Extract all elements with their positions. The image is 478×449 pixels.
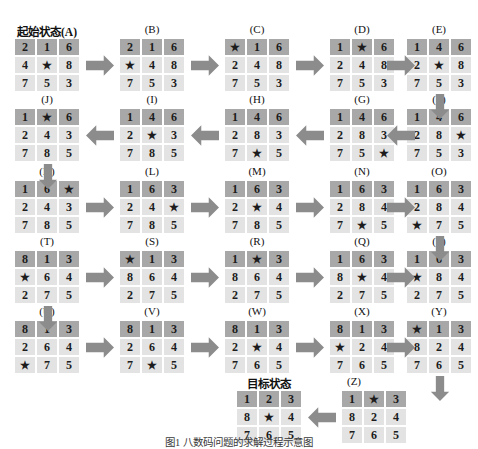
puzzle-row: ★13 xyxy=(406,320,472,338)
puzzle-tile: 1 xyxy=(142,321,162,337)
puzzle-tile: 2 xyxy=(352,339,372,355)
puzzle-tile: 5 xyxy=(269,145,289,161)
puzzle-tile: 5 xyxy=(269,217,289,233)
puzzle-tile: 2 xyxy=(259,391,279,407)
puzzle-state-o: 163284★75 xyxy=(406,180,472,234)
puzzle-tile: 1 xyxy=(225,181,245,197)
state-label-f: (F) xyxy=(379,93,478,105)
puzzle-row: 7★5 xyxy=(224,144,290,162)
puzzle-row: ★75 xyxy=(14,356,80,374)
puzzle-tile: 6 xyxy=(59,39,79,55)
puzzle-tile: 2 xyxy=(15,127,35,143)
puzzle-tile: 7 xyxy=(407,357,427,373)
puzzle-row: 275 xyxy=(329,286,395,304)
puzzle-tile: 2 xyxy=(15,287,35,303)
flow-arrow-down xyxy=(430,376,450,401)
puzzle-tile: 7 xyxy=(15,75,35,91)
puzzle-row: 813 xyxy=(119,320,185,338)
puzzle-tile: 7 xyxy=(225,357,245,373)
puzzle-row: 264 xyxy=(119,338,185,356)
puzzle-tile: 7 xyxy=(37,357,57,373)
puzzle-tile: 1 xyxy=(142,39,162,55)
puzzle-tile: 3 xyxy=(164,251,184,267)
puzzle-tile: 4 xyxy=(269,269,289,285)
puzzle-state-i: 1462★3785 xyxy=(119,108,185,162)
puzzle-tile: 2 xyxy=(120,287,140,303)
puzzle-state-m: 1632★4785 xyxy=(224,180,290,234)
puzzle-tile: 1 xyxy=(407,181,427,197)
puzzle-tile: 5 xyxy=(59,357,79,373)
puzzle-tile: 1 xyxy=(407,39,427,55)
puzzle-tile: 4 xyxy=(142,109,162,125)
puzzle-tile: 5 xyxy=(374,357,394,373)
puzzle-tile: 3 xyxy=(374,251,394,267)
puzzle-row: 8★4 xyxy=(236,408,302,426)
puzzle-tile: 4 xyxy=(269,339,289,355)
puzzle-row: 163 xyxy=(329,180,395,198)
puzzle-tile: 3 xyxy=(374,75,394,91)
puzzle-tile: 8 xyxy=(15,321,35,337)
puzzle-row: 163 xyxy=(329,250,395,268)
figure-caption: 图1 八数码问题的求解过程示意图 xyxy=(0,434,478,449)
state-label-t: (T) xyxy=(0,235,107,247)
puzzle-tile: 4 xyxy=(59,269,79,285)
puzzle-tile: 4 xyxy=(15,57,35,73)
puzzle-row: ★64 xyxy=(14,268,80,286)
puzzle-state-x: 813★24765 xyxy=(329,320,395,374)
puzzle-tile: 2 xyxy=(225,57,245,73)
puzzle-tile: 8 xyxy=(330,321,350,337)
puzzle-tile: 3 xyxy=(269,181,289,197)
flow-arrow-left xyxy=(191,124,219,147)
state-label-b: (B) xyxy=(92,23,212,35)
flow-arrow-right xyxy=(387,336,415,359)
puzzle-tile: 3 xyxy=(164,181,184,197)
state-label-h: (H) xyxy=(197,93,317,105)
puzzle-row: 753 xyxy=(329,74,395,92)
puzzle-tile: 8 xyxy=(225,269,245,285)
puzzle-tile: 1 xyxy=(330,181,350,197)
puzzle-tile: 4 xyxy=(269,199,289,215)
puzzle-state-b: 216★48753 xyxy=(119,38,185,92)
puzzle-tile: 5 xyxy=(164,287,184,303)
puzzle-tile: 3 xyxy=(59,251,79,267)
puzzle-row: 275 xyxy=(14,286,80,304)
puzzle-tile: 5 xyxy=(164,357,184,373)
puzzle-tile: 1 xyxy=(330,251,350,267)
puzzle-tile: 7 xyxy=(407,145,427,161)
puzzle-tile: 4 xyxy=(247,57,267,73)
puzzle-tile: 2 xyxy=(120,39,140,55)
flow-arrow-left xyxy=(86,124,114,147)
puzzle-tile: 2 xyxy=(330,57,350,73)
puzzle-row: 146 xyxy=(406,38,472,56)
puzzle-tile: 1 xyxy=(142,251,162,267)
puzzle-row: 123 xyxy=(236,390,302,408)
puzzle-state-e: 1462★8753 xyxy=(406,38,472,92)
puzzle-tile: 7 xyxy=(407,75,427,91)
state-label-e: (E) xyxy=(379,23,478,35)
puzzle-row: 1★3 xyxy=(224,250,290,268)
flow-arrow-right xyxy=(191,266,219,289)
state-label-a: 起始状态(A) xyxy=(0,23,107,39)
puzzle-tile: 8 xyxy=(164,57,184,73)
puzzle-tile: 3 xyxy=(269,251,289,267)
puzzle-tile: 2 xyxy=(225,339,245,355)
puzzle-tile: 4 xyxy=(429,39,449,55)
state-label-m: (M) xyxy=(197,165,317,177)
puzzle-blank-tile: ★ xyxy=(142,357,162,373)
puzzle-tile: 2 xyxy=(15,39,35,55)
puzzle-state-g: 14628375★ xyxy=(329,108,395,162)
puzzle-blank-tile: ★ xyxy=(247,251,267,267)
puzzle-blank-tile: ★ xyxy=(247,339,267,355)
puzzle-tile: 6 xyxy=(59,109,79,125)
puzzle-tile: 7 xyxy=(429,217,449,233)
puzzle-row: ★13 xyxy=(119,250,185,268)
puzzle-row: 753 xyxy=(406,74,472,92)
puzzle-tile: 8 xyxy=(429,199,449,215)
puzzle-blank-tile: ★ xyxy=(142,127,162,143)
puzzle-tile: 5 xyxy=(429,145,449,161)
flow-arrow-right xyxy=(387,54,415,77)
puzzle-row: ★75 xyxy=(406,216,472,234)
puzzle-tile: 4 xyxy=(37,199,57,215)
puzzle-tile: 7 xyxy=(330,217,350,233)
state-label-z: (Z) xyxy=(294,375,414,387)
